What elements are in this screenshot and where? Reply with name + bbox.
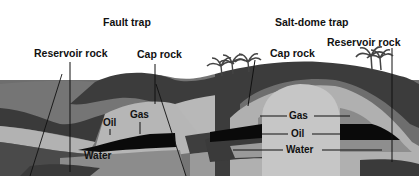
- cap-rock-label-fault: Cap rock: [137, 49, 182, 60]
- cap-rock-label-dome: Cap rock: [270, 48, 315, 59]
- geology-illustration: [0, 0, 419, 176]
- palm-trees-right-icon: [356, 47, 393, 70]
- oil-label-fault: Oil: [103, 118, 116, 128]
- salt-dome-trap-title: Salt-dome trap: [275, 17, 349, 28]
- fault-trap-title: Fault trap: [103, 17, 151, 28]
- oil-label-dome: Oil: [291, 129, 304, 139]
- gas-label-fault: Gas: [130, 110, 149, 120]
- reservoir-rock-label-fault: Reservoir rock: [34, 48, 108, 59]
- reservoir-rock-label-dome: Reservoir rock: [327, 37, 401, 48]
- gas-label-dome: Gas: [289, 111, 308, 121]
- water-label-dome: Water: [286, 145, 313, 155]
- oil-trap-diagram: Fault trap Salt-dome trap Reservoir rock…: [0, 0, 419, 176]
- water-label-fault: Water: [84, 151, 111, 161]
